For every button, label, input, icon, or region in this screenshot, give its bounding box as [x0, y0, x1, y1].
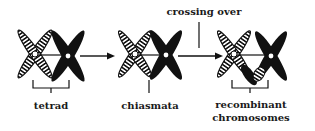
chiasmata-label: chiasmata: [121, 100, 179, 111]
tetrad-label: tetrad: [34, 100, 68, 111]
crossing-over-label: crossing over: [167, 6, 243, 17]
arrow-1: [80, 53, 115, 60]
recombinant-label-line2: chromosomes: [212, 112, 290, 123]
arrow-2: [178, 53, 223, 60]
hatched-chromosome: [115, 28, 155, 79]
recombinant-stage: recombinant chromosomes: [212, 28, 291, 123]
tetrad-bracket: [33, 80, 69, 93]
hatched-chromosome: [15, 28, 56, 81]
tetrad-stage: tetrad: [15, 28, 89, 111]
recombinant-solid-chromosome: [251, 28, 292, 83]
recombinant-label-line1: recombinant: [215, 99, 287, 110]
chiasmata-stage: chiasmata: [115, 27, 186, 111]
crossing-over-diagram: tetrad chiasmata crossing over: [0, 0, 315, 131]
